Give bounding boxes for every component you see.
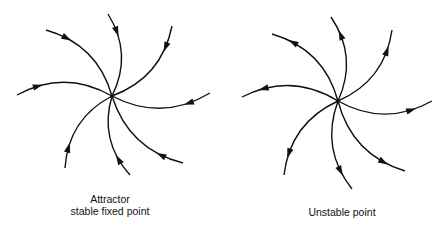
- arrowhead-icon: [406, 105, 417, 114]
- trajectory-curve: [108, 14, 122, 96]
- trajectory-curve: [46, 30, 112, 96]
- trajectory-curve: [338, 101, 405, 171]
- phase-portraits: [0, 0, 447, 225]
- arrowhead-icon: [335, 165, 345, 177]
- unstable-point-caption: Unstable point: [272, 206, 412, 218]
- fixed-point-dot: [110, 94, 114, 98]
- attractor-caption: Attractor stable fixed point: [40, 193, 180, 217]
- arrowhead-icon: [113, 153, 124, 165]
- trajectory-curve: [65, 96, 112, 168]
- attractor-caption-title: Attractor: [40, 193, 180, 205]
- arrowhead-icon: [258, 84, 269, 93]
- trajectory-curve: [284, 101, 338, 175]
- trajectory-curve: [338, 101, 432, 114]
- arrowhead-icon: [161, 41, 171, 53]
- arrowhead-icon: [64, 142, 73, 153]
- arrowhead-icon: [32, 82, 43, 91]
- attractor-diagram: [17, 14, 210, 175]
- trajectory-curve: [112, 96, 183, 163]
- arrowhead-icon: [287, 37, 299, 47]
- arrowhead-icon: [183, 98, 195, 107]
- arrowhead-icon: [336, 29, 346, 41]
- arrowhead-icon: [378, 157, 390, 167]
- trajectory-curve: [242, 85, 338, 101]
- arrowhead-icon: [155, 150, 167, 160]
- arrowhead-icon: [284, 148, 293, 160]
- unstable-point-caption-title: Unstable point: [272, 206, 412, 218]
- arrowhead-icon: [112, 26, 121, 38]
- attractor-caption-subtitle: stable fixed point: [40, 205, 180, 217]
- trajectory-curve: [112, 93, 210, 108]
- trajectory-curve: [17, 82, 112, 96]
- fixed-point-dot: [336, 99, 340, 103]
- trajectory-curve: [272, 34, 338, 101]
- arrowhead-icon: [382, 45, 391, 57]
- unstable-point-diagram: [242, 17, 432, 189]
- arrowhead-icon: [61, 33, 73, 43]
